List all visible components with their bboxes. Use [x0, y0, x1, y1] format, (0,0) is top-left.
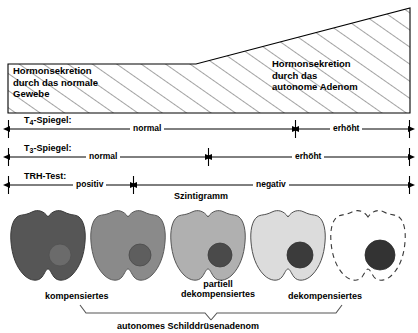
gland-2 [91, 211, 166, 281]
gland-4 [251, 211, 326, 281]
gland-caption-2-line-2: dekompensiertes [166, 289, 270, 299]
gland-caption-partiell-dekompensiertes: partiell dekompensiertes [166, 279, 270, 299]
gland-3-body [171, 211, 246, 281]
gland-2-body [91, 211, 166, 281]
gland-3-nodule [208, 243, 232, 267]
gland-3 [171, 211, 246, 281]
brace-label: autonomes Schilddrüsenadenom [117, 321, 259, 331]
gland-1-body [11, 211, 86, 281]
gland-5 [331, 211, 406, 281]
gland-caption-dekompensiertes: dekompensiertes [288, 291, 362, 301]
brace-left-arm [80, 305, 211, 320]
gland-caption-3-line-1: dekompensiertes [288, 291, 362, 301]
gland-4-body [251, 211, 326, 281]
bottom-brace [80, 305, 342, 320]
gland-caption-2-line-1: partiell [166, 279, 270, 289]
brace-right-arm [211, 305, 342, 320]
gland-caption-1-line-1: kompensiertes [45, 291, 109, 301]
gland-4-nodule [287, 242, 313, 268]
gland-1 [11, 211, 86, 281]
gland-caption-kompensiertes: kompensiertes [45, 291, 109, 301]
diagram-root: Hormonsekretion durch das normale Gewebe… [0, 0, 418, 333]
gland-1-nodule [49, 244, 71, 266]
gland-2-nodule [129, 244, 151, 266]
gland-5-nodule [365, 240, 395, 270]
